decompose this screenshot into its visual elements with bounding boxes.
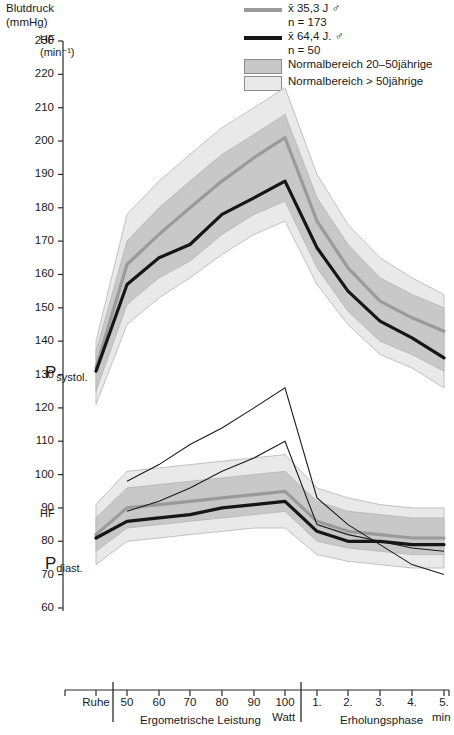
unit-watt-label: Watt <box>272 711 295 723</box>
section-label-erholungsphase: Erholungsphase <box>340 714 423 726</box>
y-tick-label: 90 <box>20 501 54 513</box>
section-label-ergometrische-leistung: Ergometrische Leistung <box>140 714 261 726</box>
x-tick-label: 5. <box>424 696 454 708</box>
y-tick-label: 110 <box>20 434 54 446</box>
y-tick-label: 170 <box>20 234 54 246</box>
y-tick-label: 80 <box>20 534 54 546</box>
p-diast-label: Pdiast. <box>45 555 83 577</box>
y-tick-label: 120 <box>20 401 54 413</box>
y-tick-label: 160 <box>20 267 54 279</box>
y-tick-label: 200 <box>20 134 54 146</box>
y-tick-label: 60 <box>20 601 54 613</box>
y-tick-label: 190 <box>20 167 54 179</box>
unit-min-label: min <box>432 711 451 723</box>
y-tick-label: 210 <box>20 101 54 113</box>
y-tick-label: 180 <box>20 201 54 213</box>
y-tick-label: 150 <box>20 301 54 313</box>
y-tick-label: 230 <box>20 34 54 46</box>
y-tick-label: 140 <box>20 334 54 346</box>
blood-pressure-ergometry-chart: Blutdruck (mmHg) HF (min⁻¹) HF x̄ 35,3 J… <box>0 0 454 735</box>
y-tick-label: 100 <box>20 468 54 480</box>
y-tick-label: 220 <box>20 67 54 79</box>
p-systol-label: Psystol. <box>45 364 88 386</box>
